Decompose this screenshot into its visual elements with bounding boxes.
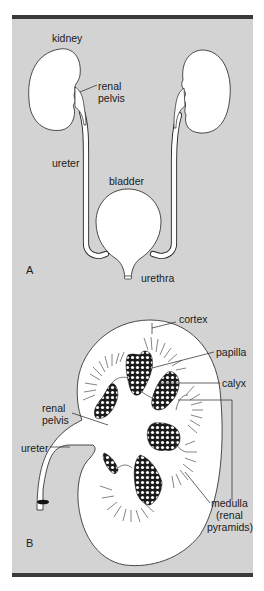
left-kidney-shape <box>29 49 81 131</box>
label-renal-pelvis-a-line2: pelvis <box>98 92 125 104</box>
label-ureter-a: ureter <box>52 157 79 169</box>
label-medulla-line2: (renal <box>216 509 243 521</box>
label-medulla-line1: medulla <box>211 497 248 509</box>
label-papilla: papilla <box>216 346 246 358</box>
label-renal-pelvis-b-line2: pelvis <box>42 414 69 426</box>
panel-letter-b: B <box>26 537 33 549</box>
label-medulla-line3: pyramids) <box>207 521 253 533</box>
label-renal-pelvis-b-line1: renal <box>42 402 65 414</box>
label-kidney: kidney <box>52 32 82 44</box>
label-cortex: cortex <box>179 313 208 325</box>
right-kidney-shape <box>182 50 231 133</box>
panel-b-kidney-section <box>37 320 232 566</box>
label-ureter-b: ureter <box>21 442 48 454</box>
label-calyx: calyx <box>222 377 246 389</box>
panel-letter-a: A <box>26 264 33 276</box>
label-renal-pelvis-a-line1: renal <box>98 80 121 92</box>
label-urethra: urethra <box>141 272 174 284</box>
label-bladder: bladder <box>109 175 144 187</box>
bladder-shape <box>96 189 161 278</box>
